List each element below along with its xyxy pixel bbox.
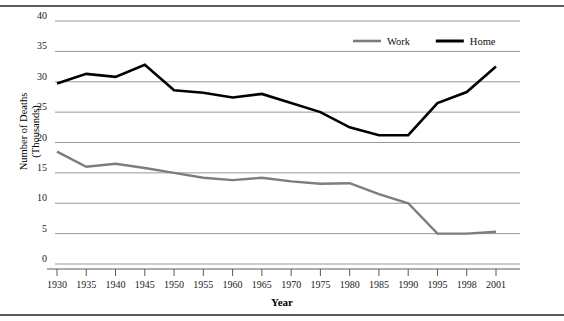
x-tick-label: 1995 [427, 279, 447, 290]
x-tick-label: 1970 [281, 279, 301, 290]
series-line-work [57, 152, 496, 234]
x-tick-label: 1945 [135, 279, 155, 290]
x-tick-label: 1955 [193, 279, 213, 290]
x-tick-label: 1930 [47, 279, 67, 290]
x-tick-label: 1985 [369, 279, 389, 290]
x-axis-group [47, 269, 520, 276]
data-series-group [57, 65, 496, 234]
chart-figure: 0510152025303540 19301935194019451950195… [0, 0, 564, 321]
x-axis-title: Year [0, 296, 564, 308]
y-tick-label: 5 [42, 223, 47, 234]
chart-legend: WorkHome [353, 36, 496, 47]
x-tick-label: 1965 [252, 279, 272, 290]
gridlines-group [55, 21, 520, 264]
y-axis-title-line1: Number of Deaths [18, 93, 29, 171]
legend-label-work: Work [387, 36, 411, 47]
x-tick-label: 1950 [164, 279, 184, 290]
legend-label-home: Home [470, 36, 496, 47]
x-tick-label: 1990 [398, 279, 418, 290]
x-tick-label: 1940 [106, 279, 126, 290]
x-tick-label: 1960 [223, 279, 243, 290]
y-axis-title-line2: (Thousands) [29, 105, 40, 158]
series-line-home [57, 65, 496, 135]
x-tick-label: 1935 [76, 279, 96, 290]
y-tick-label: 40 [37, 10, 47, 21]
x-axis-tick-labels: 1930193519401945195019551960196519701975… [47, 279, 506, 290]
y-axis-title: Number of Deaths (Thousands) [18, 67, 41, 197]
x-tick-label: 1975 [310, 279, 330, 290]
x-tick-label: 1998 [457, 279, 477, 290]
y-tick-label: 35 [37, 40, 47, 51]
x-tick-label: 1980 [340, 279, 360, 290]
x-tick-label: 2001 [486, 279, 506, 290]
y-tick-label: 0 [42, 253, 47, 264]
line-chart-canvas: 0510152025303540 19301935194019451950195… [0, 0, 564, 321]
